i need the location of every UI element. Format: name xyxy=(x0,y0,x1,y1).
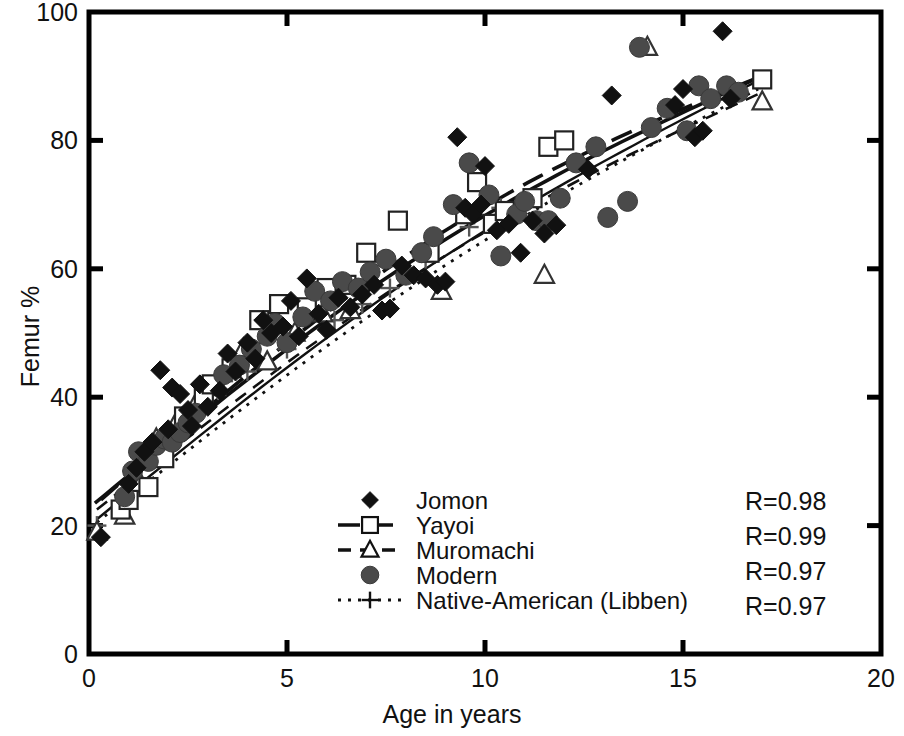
xtick-label-5: 5 xyxy=(252,664,322,693)
r-value-yayoi: R=0.99 xyxy=(745,522,826,551)
legend-label-muromachi: Muromachi xyxy=(416,537,535,565)
figure-container: 100 80 60 40 20 0 0 5 10 15 20 Age in ye… xyxy=(0,0,904,736)
x-axis-title: Age in years xyxy=(0,700,904,729)
r-value-muromachi: R=0.97 xyxy=(745,557,826,586)
y-axis-title: Femur % xyxy=(16,227,45,447)
ytick-label-20: 20 xyxy=(8,512,78,541)
r-value-jomon: R=0.98 xyxy=(745,487,826,516)
ytick-label-80: 80 xyxy=(8,126,78,155)
scatter-plot-canvas xyxy=(0,0,904,736)
xtick-label-20: 20 xyxy=(846,664,904,693)
xtick-label-10: 10 xyxy=(450,664,520,693)
legend-label-yayoi: Yayoi xyxy=(416,512,474,540)
xtick-label-15: 15 xyxy=(648,664,718,693)
legend-markers xyxy=(338,492,402,609)
data-points xyxy=(87,22,772,547)
legend-label-modern: Modern xyxy=(416,562,497,590)
legend-label-native-american: Native-American (Libben) xyxy=(416,587,688,615)
ytick-label-100: 100 xyxy=(8,0,78,27)
series-jomon xyxy=(91,22,740,547)
legend-label-jomon: Jomon xyxy=(416,487,488,515)
regression-lines xyxy=(95,78,762,523)
xtick-label-0: 0 xyxy=(54,664,124,693)
series-modern xyxy=(115,37,749,506)
r-value-modern: R=0.97 xyxy=(745,592,826,621)
